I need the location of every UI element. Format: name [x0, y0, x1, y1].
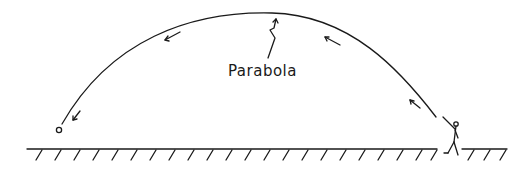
ground	[27, 149, 507, 160]
parabola-diagram	[0, 0, 531, 172]
label-pointer	[268, 19, 276, 58]
ball	[56, 127, 61, 132]
thrower-figure	[443, 117, 458, 155]
parabola-label: Parabola	[228, 62, 297, 80]
